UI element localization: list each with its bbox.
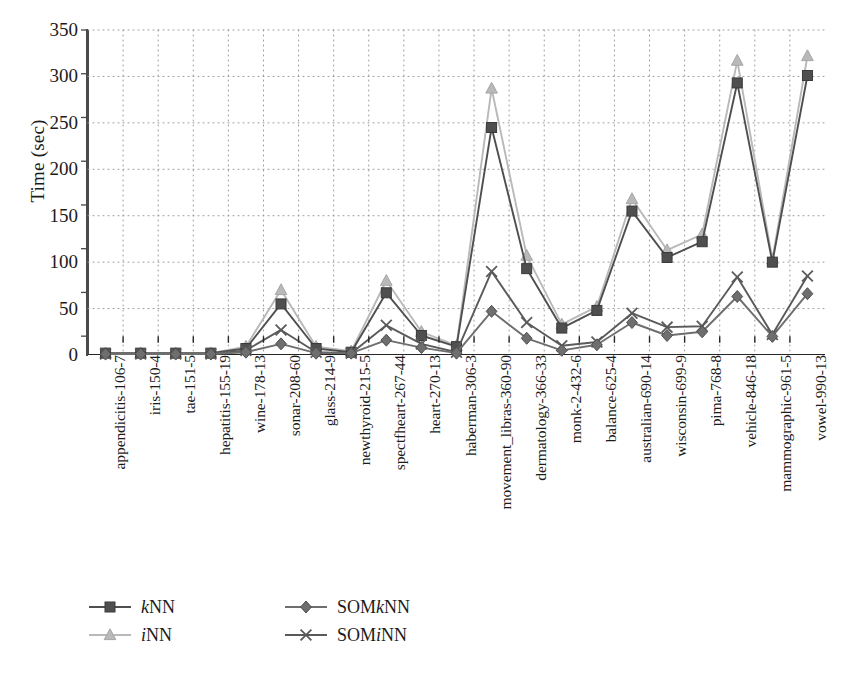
y-axis-tick-label: 200 (26, 159, 78, 178)
x-axis-tick-label: wine-178-13 (252, 355, 268, 440)
legend-item-knn[interactable]: kNN (88, 596, 175, 618)
x-axis-tick-label: pima-768-8 (708, 355, 724, 433)
legend-marker-diamond-icon (284, 598, 328, 616)
x-axis-tick-label: newthyroid-215-5 (357, 355, 373, 472)
legend-label: kNN (141, 597, 175, 618)
x-axis-tick-label: monk-2-432-6 (568, 355, 584, 450)
x-axis-tick-label: haberman-306-3 (463, 355, 479, 463)
legend-item-sominn[interactable]: SOMiNN (284, 624, 407, 646)
x-axis-tick-label: tae-151-5 (182, 355, 198, 421)
legend-label: SOMiNN (337, 625, 407, 646)
x-axis-tick-labels: appendicitis-106-7iris-150-4tae-151-5hep… (88, 355, 825, 585)
y-axis-tick-label: 350 (26, 20, 78, 39)
y-axis-tick-label: 100 (26, 252, 78, 271)
plot-area (88, 30, 825, 355)
y-axis-tick-label: 0 (26, 345, 78, 364)
x-axis-tick-label: iris-150-4 (147, 355, 163, 422)
legend-item-inn[interactable]: iNN (88, 624, 172, 646)
chart-figure: Time (sec) 050100150200250300350 appendi… (0, 0, 841, 680)
legend-label: SOMkNN (337, 597, 410, 618)
chart-legend: kNNiNNSOMkNNSOMiNN (88, 596, 448, 652)
x-axis-tick-label: australian-690-14 (638, 355, 654, 470)
legend-label: iNN (141, 625, 172, 646)
y-axis-tick-label: 150 (26, 206, 78, 225)
x-axis-tick-label: spectfheart-267-44 (392, 355, 408, 477)
x-axis-tick-label: hepatitis-155-19 (217, 355, 233, 462)
x-axis-tick-label: wisconsin-699-9 (673, 355, 689, 464)
x-axis-tick-label: vehicle-846-18 (743, 355, 759, 454)
y-axis-tick-label: 50 (26, 299, 78, 318)
axis-ticks-layer (88, 30, 825, 355)
x-axis-tick-label: glass-214-9 (322, 355, 338, 433)
legend-item-somknn[interactable]: SOMkNN (284, 596, 410, 618)
x-axis-tick-label: movement_libras-360-90 (498, 355, 514, 517)
legend-marker-triangle-icon (88, 626, 132, 644)
y-axis-tick-label: 300 (26, 66, 78, 85)
x-axis-tick-label: sonar-208-60 (287, 355, 303, 443)
legend-marker-square-icon (88, 598, 132, 616)
x-axis-tick-label: vowel-990-13 (813, 355, 829, 448)
x-axis-tick-label: appendicitis-106-7 (112, 355, 128, 476)
x-axis-tick-label: dermatology-366-33 (533, 355, 549, 488)
y-axis-tick-labels: 050100150200250300350 (22, 0, 78, 380)
x-axis-tick-label: heart-270-13 (427, 355, 443, 441)
legend-marker-cross-icon (284, 626, 328, 644)
y-axis-tick-label: 250 (26, 113, 78, 132)
x-axis-tick-label: balance-625-4 (603, 355, 619, 449)
x-axis-tick-label: mammographic-961-5 (778, 355, 794, 499)
